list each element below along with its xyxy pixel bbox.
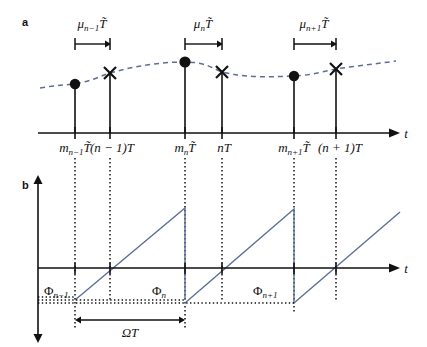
phase-ramp-3 <box>294 212 400 303</box>
interval-label-mu-n-1: μn−1T̃ <box>77 16 108 33</box>
omega-T-label: ΩT <box>122 325 139 340</box>
panel-a-label: a <box>22 16 29 28</box>
panel-b-label: b <box>22 179 29 191</box>
sample-dot-m-n <box>179 56 190 67</box>
panel-a-axis-label-t: t <box>404 126 408 141</box>
panel-b-group: b t <box>22 175 408 343</box>
axis-tick-label-m-n+1: mn+1T̃ <box>278 140 310 157</box>
panel-a-axis-arrowhead <box>389 129 400 138</box>
sample-dot-m-n-1 <box>70 79 80 89</box>
axis-tick-label-m-n: mnT̃ <box>174 140 196 157</box>
sample-dot-m-n+1 <box>289 71 299 81</box>
panel-b-axis-label-t: t <box>404 261 408 276</box>
interval-annotation-mu-n+1: μn+1T̃ <box>294 16 337 50</box>
interval-annotation-mu-n: μnT̃ <box>185 16 223 50</box>
interval-annotation-mu-n-1: μn−1T̃ <box>75 16 111 50</box>
figure-container: a t <box>0 0 427 347</box>
phase-label-phi-n-1: Φn−1 <box>44 283 69 300</box>
panel-b-value-axis-arrow-up <box>34 175 43 184</box>
panel-b-axis-arrowhead <box>389 264 400 273</box>
timing-diagram-svg: a t <box>0 0 427 347</box>
phase-label-phi-n: Φn <box>152 283 167 300</box>
phase-ramp-1 <box>75 208 185 300</box>
panel-connectors-group <box>75 158 336 178</box>
axis-tick-label-n-1-T: (n − 1)T <box>90 140 135 155</box>
phase-ramp-2 <box>185 209 294 303</box>
panel-a-group: a t <box>22 16 408 157</box>
phase-label-phi-n+1: Φn+1 <box>253 283 278 300</box>
axis-tick-label-n-T: nT <box>217 140 232 155</box>
panel-b-value-axis-arrow-down <box>34 334 43 343</box>
omega-T-span-annotation: ΩT <box>75 317 185 340</box>
interval-label-mu-n+1: μn+1T̃ <box>299 16 330 33</box>
interval-label-mu-n: μnT̃ <box>193 16 213 33</box>
axis-tick-label-n+1-T: (n + 1)T <box>318 140 363 155</box>
axis-tick-label-m-n-1: mn−1T̃ <box>59 140 91 157</box>
